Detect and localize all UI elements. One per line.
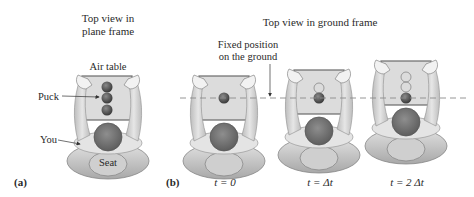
- time-label-t0: t = 0: [214, 176, 236, 188]
- diagram-canvas: Top view in plane frame Air table Puck Y…: [0, 0, 474, 197]
- figure-t2: [365, 60, 447, 164]
- air-table-label: Air table: [89, 61, 126, 72]
- panel-b-title: Top view in ground frame: [263, 16, 378, 28]
- panel-a-label: (a): [14, 176, 27, 189]
- panel-a-title-line1: Top view in: [82, 12, 135, 24]
- time-label-t2: t = 2 Δt: [390, 176, 425, 188]
- panel-b: Top view in ground frame Fixed position …: [166, 16, 470, 189]
- you-label: You: [40, 134, 58, 145]
- puck-icon: [102, 82, 113, 93]
- figure-t0: [183, 75, 265, 179]
- puck-icon: [102, 93, 113, 104]
- fixed-position-line1: Fixed position: [218, 39, 279, 50]
- seat-label: Seat: [99, 157, 117, 168]
- fixed-position-line2: on the ground: [219, 51, 278, 62]
- panel-b-label: (b): [166, 176, 180, 189]
- puck-label: Puck: [38, 91, 60, 102]
- panel-a-title-line2: plane frame: [82, 25, 134, 37]
- figure-t1: [278, 69, 360, 173]
- time-label-t1: t = Δt: [307, 176, 333, 188]
- panel-a: Top view in plane frame Air table Puck Y…: [14, 12, 149, 189]
- puck-icon: [102, 105, 113, 116]
